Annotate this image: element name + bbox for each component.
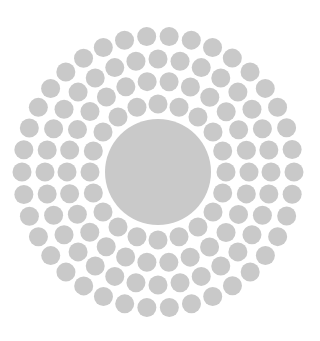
dot xyxy=(242,100,261,119)
dot xyxy=(241,263,260,282)
dot xyxy=(240,163,259,182)
dot xyxy=(126,52,145,71)
dot xyxy=(127,227,146,246)
dot xyxy=(60,184,79,203)
dot xyxy=(200,237,219,256)
dot xyxy=(68,120,87,139)
dot xyxy=(105,58,124,77)
dot xyxy=(44,119,63,138)
dot xyxy=(137,298,156,317)
dot xyxy=(80,223,99,242)
dot xyxy=(171,273,190,292)
dot xyxy=(203,38,222,57)
dot xyxy=(262,163,281,182)
dot xyxy=(228,83,247,102)
dot xyxy=(188,107,207,126)
dot xyxy=(159,253,178,272)
dot xyxy=(41,79,60,98)
dot xyxy=(56,63,75,82)
dot xyxy=(109,218,128,237)
dot xyxy=(149,231,168,250)
dot xyxy=(268,98,287,117)
dot xyxy=(160,298,179,317)
dot xyxy=(93,202,112,221)
dot xyxy=(242,225,261,244)
concentric-dot-rings xyxy=(0,0,320,341)
dot xyxy=(116,77,135,96)
dot xyxy=(41,246,60,265)
dot xyxy=(256,79,275,98)
dot xyxy=(277,118,296,137)
dot xyxy=(20,118,39,137)
dot xyxy=(13,163,32,182)
dot xyxy=(182,294,201,313)
dot xyxy=(74,276,93,295)
dot xyxy=(259,140,278,159)
dot xyxy=(93,123,112,142)
dot xyxy=(137,253,156,272)
dot xyxy=(149,276,168,295)
dot xyxy=(268,227,287,246)
dot xyxy=(192,267,211,286)
dot xyxy=(181,248,200,267)
dot xyxy=(149,95,168,114)
dot xyxy=(285,162,304,181)
dot xyxy=(97,237,116,256)
dot xyxy=(170,98,189,117)
dot xyxy=(259,185,278,204)
dot xyxy=(170,227,189,246)
dot xyxy=(44,206,63,225)
dot xyxy=(80,102,99,121)
dot xyxy=(81,163,100,182)
dot xyxy=(115,31,134,50)
dot xyxy=(127,98,146,117)
dot xyxy=(217,223,236,242)
dot xyxy=(20,207,39,226)
dot xyxy=(181,77,200,96)
dot xyxy=(283,185,302,204)
dot xyxy=(217,102,236,121)
dot xyxy=(223,49,242,68)
dot xyxy=(97,88,116,107)
dot xyxy=(204,123,223,142)
dot xyxy=(213,141,232,160)
dot xyxy=(229,120,248,139)
dot xyxy=(14,140,33,159)
center-disc xyxy=(105,119,211,225)
dot xyxy=(253,206,272,225)
dot xyxy=(126,273,145,292)
dot xyxy=(211,256,230,275)
dot xyxy=(116,248,135,267)
dot xyxy=(69,242,88,261)
dot xyxy=(237,141,256,160)
dot xyxy=(109,107,128,126)
dot xyxy=(58,162,77,181)
dot xyxy=(36,163,55,182)
dot xyxy=(283,140,302,159)
dot xyxy=(115,294,134,313)
dot xyxy=(94,38,113,57)
dot xyxy=(94,287,113,306)
dot xyxy=(138,72,157,91)
dot xyxy=(237,184,256,203)
dot xyxy=(256,246,275,265)
dot xyxy=(105,267,124,286)
dot xyxy=(228,242,247,261)
dot xyxy=(160,72,179,91)
dot xyxy=(84,184,103,203)
dot xyxy=(241,62,260,81)
dot xyxy=(74,49,93,68)
dot xyxy=(182,31,201,50)
dot xyxy=(86,69,105,88)
dot xyxy=(211,69,230,88)
dot xyxy=(84,141,103,160)
dot xyxy=(60,141,79,160)
dot xyxy=(203,287,222,306)
dot xyxy=(192,58,211,77)
dot xyxy=(86,256,105,275)
dot xyxy=(217,163,236,182)
dot xyxy=(29,227,48,246)
dot xyxy=(188,218,207,237)
dot-pattern-figure xyxy=(0,0,320,341)
dot xyxy=(14,185,33,204)
